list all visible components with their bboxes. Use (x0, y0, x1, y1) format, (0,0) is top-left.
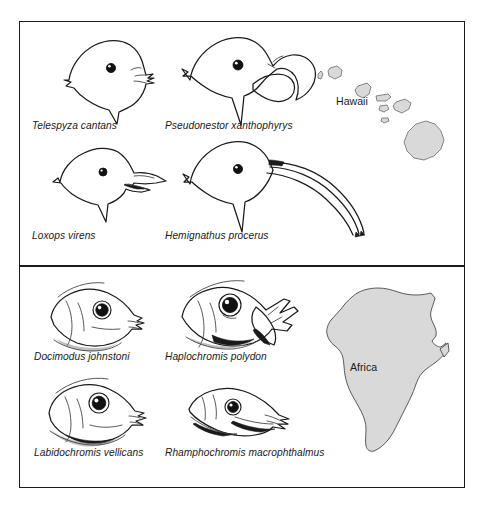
caption-haplochromis-polydon: Haplochromis polydon (165, 351, 267, 362)
africa-map (322, 281, 452, 463)
caption-loxops-virens: Loxops virens (32, 230, 96, 241)
hawaiian-islands-map (310, 48, 460, 166)
caption-hemignathus-procerus: Hemignathus procerus (165, 230, 269, 241)
fish-head-labidochromis-vellicans (36, 371, 171, 451)
caption-docimodus-johnstoni: Docimodus johnstoni (34, 351, 130, 362)
fish-head-docimodus-johnstoni (36, 277, 171, 359)
panel-hawaiian-honeycreepers: Telespyza cantans Pseudonestor xanthophy… (19, 21, 465, 266)
caption-labidochromis-vellicans: Labidochromis vellicans (34, 447, 143, 458)
panel-african-cichlids: Docimodus johnstoni (19, 266, 465, 488)
caption-rhamphochromis-macrophthalmus: Rhamphochromis macrophthalmus (165, 447, 324, 458)
map-label-hawaii: Hawaii (336, 95, 368, 107)
caption-telespyza-cantans: Telespyza cantans (32, 120, 117, 131)
bird-head-loxops-virens (40, 140, 170, 230)
map-label-africa: Africa (350, 361, 377, 373)
fish-head-rhamphochromis-macrophthalmus (175, 379, 310, 451)
bird-head-telespyza-cantans (35, 30, 165, 132)
fish-head-haplochromis-polydon (168, 273, 313, 361)
adaptive-radiation-figure: Telespyza cantans Pseudonestor xanthophy… (0, 0, 484, 509)
caption-pseudonestor-xanthophyrys: Pseudonestor xanthophyrys (165, 120, 293, 131)
